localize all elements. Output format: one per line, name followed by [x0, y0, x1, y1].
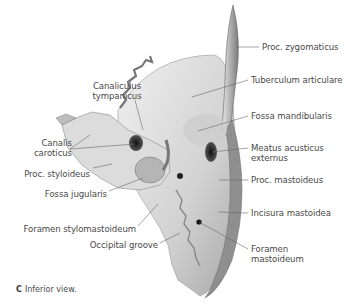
label-canalis-line2: caroticus	[20, 148, 72, 158]
meatus-acusticus-hole	[205, 142, 217, 162]
label-canalis-caroticus: Canalis caroticus	[20, 138, 72, 158]
label-foramen-mastoideum-line2: mastoideum	[251, 254, 304, 264]
label-proc-styloideus: Proc. styloideus	[10, 169, 90, 179]
stylomastoid-foramen	[177, 173, 183, 179]
label-foramen-mastoideum: Foramen mastoideum	[251, 244, 304, 264]
label-proc-mastoideus: Proc. mastoideus	[251, 175, 323, 185]
label-incisura-mastoidea: Incisura mastoidea	[251, 208, 331, 218]
caption-text: Inferior view.	[25, 285, 77, 294]
label-foramen-mastoideum-line1: Foramen	[251, 244, 304, 254]
label-foramen-stylomastoideum: Foramen stylomastoideum	[20, 224, 136, 234]
canalis-caroticus-hole	[129, 135, 143, 151]
caption-letter: C	[16, 285, 22, 294]
label-meatus-line1: Meatus acusticus	[251, 143, 324, 153]
label-canaliculus-line1: Canaliculus	[90, 81, 144, 91]
label-canaliculus-tympanicus: Canaliculus tympanicus	[90, 81, 144, 101]
label-meatus-acusticus: Meatus acusticus externus	[251, 143, 324, 163]
label-canaliculus-line2: tympanicus	[90, 91, 144, 101]
label-occipital-groove: Occipital groove	[70, 240, 158, 250]
label-fossa-jugularis: Fossa jugularis	[30, 189, 107, 199]
label-fossa-mandibularis: Fossa mandibularis	[251, 111, 332, 121]
label-canalis-line1: Canalis	[20, 138, 72, 148]
label-tuberculum-articulare: Tuberculum articulare	[251, 75, 343, 85]
fossa-mandibularis-area	[183, 114, 227, 146]
label-meatus-line2: externus	[251, 153, 324, 163]
figure-caption: CInferior view.	[16, 285, 77, 294]
label-proc-zygomaticus: Proc. zygomaticus	[262, 42, 338, 52]
